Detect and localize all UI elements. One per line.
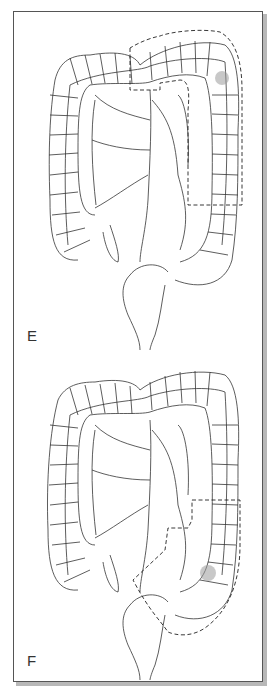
- lesion-marker-f: [200, 565, 216, 581]
- lesion-marker-e: [215, 71, 229, 85]
- colon-illustration-e: [0, 0, 277, 350]
- panel-label-e: E: [27, 327, 37, 344]
- resection-margin-f: [133, 500, 240, 635]
- panel-f: F: [0, 350, 277, 698]
- panel-e: E: [0, 0, 277, 350]
- panel-label-f: F: [27, 652, 36, 669]
- colon-illustration-f: [0, 350, 277, 698]
